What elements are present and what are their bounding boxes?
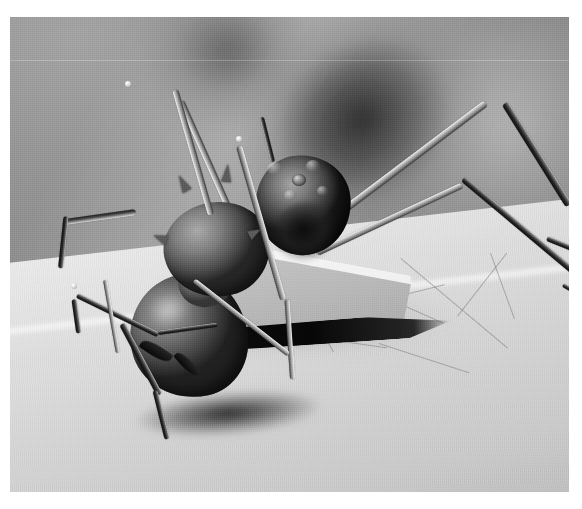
leg <box>332 100 488 220</box>
leg <box>64 209 136 225</box>
thorax-spine <box>174 172 191 193</box>
ant <box>10 17 569 492</box>
leg-tip <box>236 136 242 142</box>
head-bump <box>306 160 320 172</box>
leg <box>284 300 295 380</box>
leg <box>461 177 569 278</box>
compound-eye <box>292 174 306 186</box>
leg-tip <box>125 81 131 87</box>
thorax-spine <box>221 164 233 183</box>
photograph <box>10 17 569 492</box>
leg <box>502 102 569 207</box>
page-root: { "image": { "title": "Ant on leaf", "ty… <box>0 0 582 509</box>
head-bump <box>267 162 283 175</box>
head-shadow <box>273 202 340 269</box>
antenna-tip <box>71 283 77 289</box>
head-bump <box>317 186 328 196</box>
antenna <box>72 299 82 333</box>
leg <box>173 89 215 216</box>
antenna <box>260 116 275 162</box>
leg <box>58 216 68 268</box>
leg <box>562 283 569 316</box>
